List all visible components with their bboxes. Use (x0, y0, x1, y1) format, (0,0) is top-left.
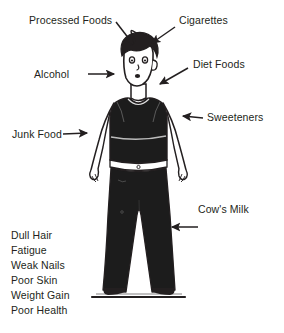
diagram-canvas: Processed Foods Cigarettes Alcohol Diet … (0, 0, 284, 333)
label-cigarettes: Cigarettes (179, 14, 228, 26)
label-junk-food: Junk Food (12, 128, 62, 140)
symptom-item: Dull Hair (11, 228, 70, 242)
symptom-list: Dull Hair Fatigue Weak Nails Poor Skin W… (11, 228, 70, 317)
arrow-processed-foods (116, 22, 133, 44)
symptom-item: Weak Nails (11, 258, 70, 272)
label-diet-foods: Diet Foods (193, 58, 245, 70)
arrow-junk-food (63, 133, 87, 134)
arrow-sweeteners (183, 116, 203, 118)
symptom-item: Weight Gain (11, 288, 70, 302)
symptom-item: Fatigue (11, 243, 70, 257)
symptom-item: Poor Health (11, 303, 70, 317)
label-cows-milk: Cow's Milk (198, 203, 249, 215)
arrow-cigarettes (152, 27, 175, 43)
label-processed-foods: Processed Foods (29, 14, 112, 26)
label-alcohol: Alcohol (34, 68, 69, 80)
arrow-diet-foods (160, 68, 188, 84)
label-sweeteners: Sweeteners (207, 111, 263, 123)
symptom-item: Poor Skin (11, 273, 70, 287)
